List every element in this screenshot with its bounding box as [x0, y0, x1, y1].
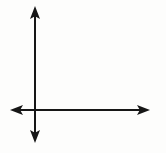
coordinate-axes-diagram — [0, 0, 166, 153]
figure-canvas — [0, 0, 166, 153]
figure-background — [0, 0, 166, 153]
